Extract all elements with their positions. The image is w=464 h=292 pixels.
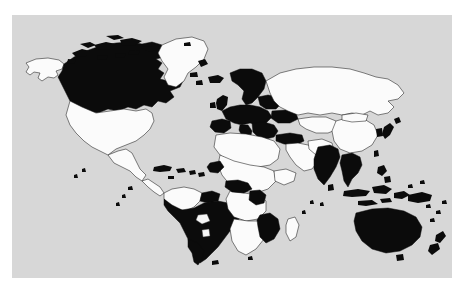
region-china [332, 117, 378, 153]
region-madagascar [286, 217, 299, 241]
region-southeast-asia-mainland [340, 153, 362, 187]
region-indonesia [343, 185, 410, 206]
region-british-isles [210, 95, 228, 111]
region-tasmania [396, 254, 404, 261]
region-philippines [377, 165, 391, 183]
region-taiwan [374, 150, 379, 157]
region-sri-lanka [328, 184, 334, 191]
region-iceland [208, 75, 224, 83]
region-new-zealand [428, 231, 446, 255]
region-india [314, 145, 340, 185]
region-caribbean-islands [153, 165, 205, 179]
region-mongolia [342, 113, 368, 122]
world-map-svg [12, 15, 452, 278]
region-falkland-islands [212, 260, 219, 265]
region-paraguay [202, 229, 210, 237]
region-central-america [142, 179, 164, 196]
region-australia [354, 208, 422, 253]
region-japan [382, 117, 401, 139]
region-mexico [108, 149, 146, 181]
map-panel [12, 15, 452, 278]
world-map-figure [0, 0, 464, 292]
region-iberia [210, 119, 231, 133]
region-russia [266, 67, 404, 115]
region-horn-of-africa [274, 169, 296, 185]
region-korea [376, 128, 383, 137]
